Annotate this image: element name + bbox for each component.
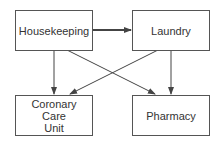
node-coronary-care-unit: Coronary Care Unit [15, 95, 93, 136]
node-label: Coronary Care Unit [31, 98, 76, 134]
node-label: Pharmacy [146, 110, 196, 122]
node-housekeeping: Housekeeping [15, 10, 93, 51]
node-label: Laundry [151, 25, 191, 37]
edge-laundry-ccu [70, 50, 158, 94]
node-label: Housekeeping [19, 25, 89, 37]
node-pharmacy: Pharmacy [132, 95, 210, 136]
edge-housekeeping-pharmacy [67, 50, 155, 94]
node-laundry: Laundry [132, 10, 210, 51]
